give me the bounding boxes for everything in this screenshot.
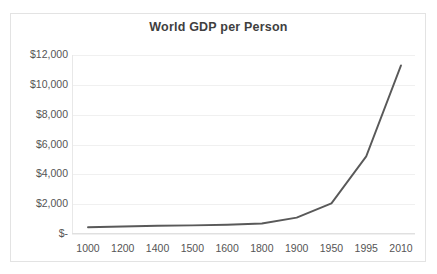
x-axis-tick-label: 1600 xyxy=(215,242,238,254)
chart-figure: World GDP per Person $12,000$10,000$8,00… xyxy=(0,0,437,274)
series-polyline xyxy=(88,65,401,227)
x-axis-tick-label: 1200 xyxy=(111,242,134,254)
y-axis-tick-label: $10,000 xyxy=(10,79,68,90)
y-axis-tick-label: $2,000 xyxy=(10,198,68,209)
x-axis-labels: 1000120014001500160018001900195019952010 xyxy=(72,242,415,258)
gridline xyxy=(72,234,415,235)
y-axis-tick-label: $4,000 xyxy=(10,168,68,179)
y-axis-tick-label: $8,000 xyxy=(10,109,68,120)
y-axis-labels: $12,000$10,000$8,000$6,000$4,000$2,000$- xyxy=(8,0,68,274)
x-axis-tick-label: 1500 xyxy=(181,242,204,254)
x-axis-tick-label: 1800 xyxy=(250,242,273,254)
x-axis-tick-label: 1000 xyxy=(76,242,99,254)
x-axis-tick-label: 1900 xyxy=(285,242,308,254)
series-line-gdp-per-person xyxy=(72,55,415,234)
x-axis-tick-label: 2010 xyxy=(389,242,412,254)
x-axis-tick-label: 1400 xyxy=(146,242,169,254)
y-axis-tick-label: $12,000 xyxy=(10,49,68,60)
x-axis-tick-label: 1950 xyxy=(320,242,343,254)
y-axis-tick-label: $- xyxy=(10,228,68,239)
y-axis-tick-label: $6,000 xyxy=(10,139,68,150)
x-axis-tick-label: 1995 xyxy=(355,242,378,254)
plot-area xyxy=(72,55,415,234)
